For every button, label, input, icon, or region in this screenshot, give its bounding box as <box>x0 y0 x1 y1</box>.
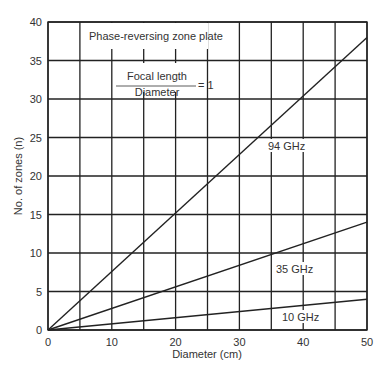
y-tick-label: 30 <box>30 93 42 105</box>
x-tick-label: 10 <box>106 336 118 348</box>
chart-title: Phase-reversing zone plate <box>89 30 223 42</box>
y-tick-label: 20 <box>30 170 42 182</box>
y-tick-label: 40 <box>30 16 42 28</box>
y-tick-label: 35 <box>30 55 42 67</box>
x-axis-ticks: 01020304050 <box>45 336 373 348</box>
x-tick-label: 50 <box>361 336 373 348</box>
x-tick-label: 0 <box>45 336 51 348</box>
y-axis-ticks: 0510152025303540 <box>30 16 42 336</box>
y-tick-label: 25 <box>30 132 42 144</box>
series-label-35ghz: 35 GHz <box>276 263 313 275</box>
ratio-equals: = 1 <box>198 79 214 91</box>
zone-plate-chart: 0510152025303540 01020304050 Diameter (c… <box>0 0 387 376</box>
x-tick-label: 30 <box>233 336 245 348</box>
x-tick-label: 20 <box>169 336 181 348</box>
ratio-numerator: Focal length <box>127 70 187 82</box>
y-tick-label: 10 <box>30 247 42 259</box>
x-tick-label: 40 <box>297 336 309 348</box>
y-axis-label: No. of zones (n) <box>12 137 24 215</box>
x-axis-label: Diameter (cm) <box>172 348 242 360</box>
ratio-denominator: Diameter <box>135 86 180 98</box>
series-label-94ghz: 94 GHz <box>268 140 305 152</box>
grid <box>48 22 367 330</box>
y-tick-label: 0 <box>36 324 42 336</box>
y-tick-label: 15 <box>30 209 42 221</box>
series-label-10ghz: 10 GHz <box>282 311 319 323</box>
y-tick-label: 5 <box>36 286 42 298</box>
